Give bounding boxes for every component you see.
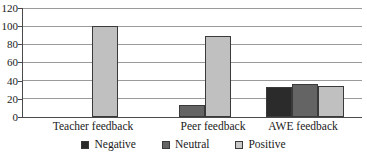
legend-label-neutral: Neutral	[175, 138, 209, 151]
y-tick-text: 80	[7, 38, 18, 50]
y-tick-text: 20	[7, 93, 18, 105]
bars-layer	[22, 8, 362, 117]
bar-chart: 120 100 80 60 40 20 0 Teacher feedback P…	[0, 0, 367, 162]
bar-peer-feedback-neutral	[179, 105, 205, 117]
y-tick-text: 60	[7, 56, 18, 68]
bar-awe-feedback-neutral	[292, 84, 318, 117]
legend-label-positive: Positive	[248, 138, 285, 151]
y-tick-text: 100	[2, 20, 19, 32]
y-tick-mark-0	[18, 117, 22, 118]
y-tick-label-120: 120	[0, 3, 18, 14]
category-label-awe-feedback: AWE feedback	[228, 120, 367, 133]
y-tick-label-60: 60	[0, 57, 18, 68]
y-tick-label-20: 20	[0, 94, 18, 105]
bar-awe-feedback-negative	[266, 87, 292, 117]
legend-swatch-negative-icon	[81, 141, 89, 149]
category-label-text: AWE feedback	[268, 120, 338, 132]
y-tick-label-40: 40	[0, 76, 18, 87]
legend-item-negative[interactable]: Negative	[81, 138, 136, 151]
legend-item-positive[interactable]: Positive	[235, 138, 285, 151]
chart-legend: Negative Neutral Positive	[0, 138, 367, 151]
category-label-text: Teacher feedback	[53, 120, 134, 132]
bar-peer-feedback-positive	[205, 36, 231, 117]
legend-label-negative: Negative	[94, 138, 136, 151]
x-axis-line	[22, 117, 362, 118]
y-tick-text: 120	[2, 2, 19, 14]
bar-awe-feedback-positive	[318, 86, 344, 117]
y-tick-label-100: 100	[0, 21, 18, 32]
legend-swatch-neutral-icon	[162, 141, 170, 149]
y-tick-label-0: 0	[0, 112, 18, 123]
legend-item-neutral[interactable]: Neutral	[162, 138, 209, 151]
y-tick-text: 40	[7, 75, 18, 87]
bar-teacher-feedback-positive	[92, 26, 118, 117]
legend-swatch-positive-icon	[235, 141, 243, 149]
y-tick-label-80: 80	[0, 39, 18, 50]
